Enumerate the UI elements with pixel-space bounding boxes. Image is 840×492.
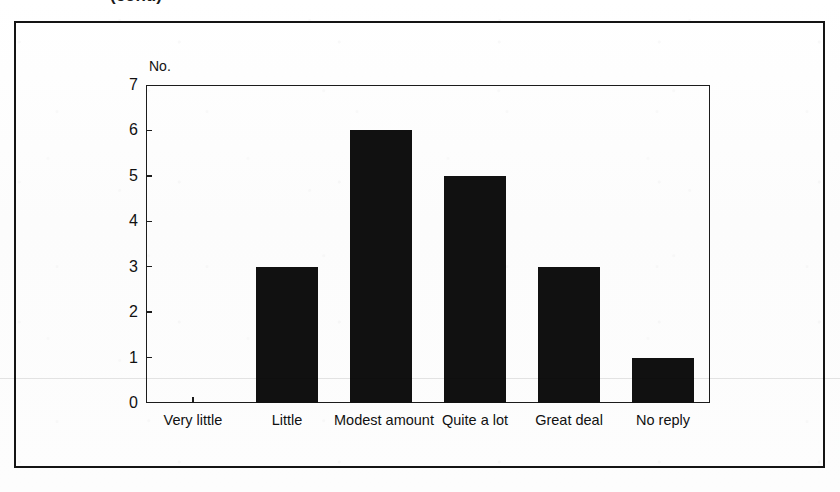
y-tick-label: 0 bbox=[112, 395, 138, 411]
x-tick-label: Great deal bbox=[522, 413, 616, 428]
scanned-page: (cont.) No. 01234567 Very littleLittleMo… bbox=[0, 0, 840, 492]
y-tick-label: 1 bbox=[112, 350, 138, 366]
y-tick-mark bbox=[146, 357, 152, 359]
y-axis-title: No. bbox=[149, 58, 171, 74]
x-tick-label: Little bbox=[240, 413, 334, 428]
y-tick-label: 2 bbox=[112, 304, 138, 320]
bar bbox=[632, 358, 694, 403]
x-tick-label: Very little bbox=[146, 413, 240, 428]
x-tick-label: Modest amount bbox=[334, 413, 428, 428]
y-tick-mark bbox=[146, 175, 152, 177]
y-tick-label: 3 bbox=[112, 259, 138, 275]
plot-frame bbox=[146, 85, 710, 403]
y-tick-label: 5 bbox=[112, 168, 138, 184]
y-tick-mark bbox=[146, 266, 152, 268]
bar-chart: No. 01234567 Very littleLittleModest amo… bbox=[0, 0, 840, 492]
bar bbox=[444, 176, 506, 403]
x-tick-label: No reply bbox=[616, 413, 710, 428]
y-tick-mark bbox=[146, 311, 152, 313]
x-tick-label: Quite a lot bbox=[428, 413, 522, 428]
y-tick-label: 7 bbox=[112, 77, 138, 93]
y-tick-mark bbox=[146, 221, 152, 223]
y-tick-label: 4 bbox=[112, 213, 138, 229]
bar bbox=[256, 267, 318, 403]
bar bbox=[538, 267, 600, 403]
bar bbox=[350, 130, 412, 403]
x-tick-mark bbox=[192, 397, 194, 403]
y-tick-mark bbox=[146, 130, 152, 132]
y-tick-label: 6 bbox=[112, 122, 138, 138]
